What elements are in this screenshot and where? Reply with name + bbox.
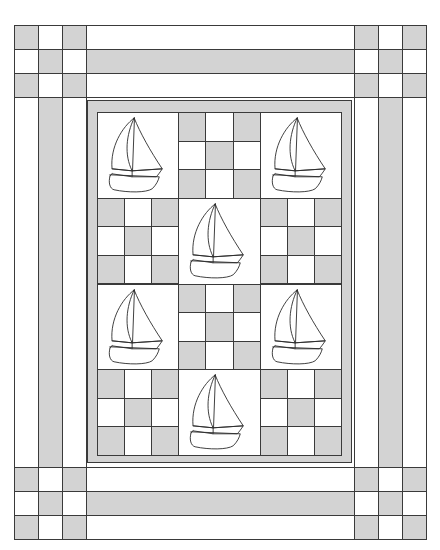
border-strip-top	[86, 49, 355, 74]
corner-patch-bottom-left	[62, 515, 87, 540]
corner-patch-top-left	[14, 25, 39, 50]
sailboat-block	[97, 112, 179, 199]
corner-patch-top-right	[402, 25, 427, 50]
nine-patch-square	[97, 226, 125, 256]
border-strip-left	[62, 97, 87, 468]
nine-patch-square	[151, 369, 179, 399]
nine-patch-square	[124, 398, 152, 428]
nine-patch-square	[205, 112, 233, 142]
nine-patch-square	[151, 398, 179, 428]
corner-patch-bottom-right	[354, 491, 379, 516]
corner-patch-top-right	[354, 25, 379, 50]
corner-patch-bottom-left	[62, 467, 87, 492]
nine-patch-square	[233, 341, 261, 371]
nine-patch-square	[314, 369, 342, 399]
nine-patch-square	[314, 226, 342, 256]
sailboat-icon	[261, 113, 341, 198]
quilt-pattern	[0, 0, 440, 550]
nine-patch-square	[205, 284, 233, 314]
corner-patch-top-right	[378, 49, 403, 74]
nine-patch-square	[287, 198, 315, 228]
nine-patch-square	[151, 255, 179, 285]
nine-patch-square	[314, 398, 342, 428]
corner-patch-bottom-right	[354, 467, 379, 492]
nine-patch-square	[260, 226, 288, 256]
nine-patch-square	[287, 255, 315, 285]
nine-patch-square	[178, 112, 206, 142]
sailboat-block	[260, 284, 342, 371]
nine-patch-square	[124, 226, 152, 256]
nine-patch-square	[233, 141, 261, 171]
nine-patch-square	[178, 341, 206, 371]
nine-patch-square	[205, 169, 233, 199]
corner-patch-top-right	[378, 25, 403, 50]
sailboat-block	[260, 112, 342, 199]
nine-patch-square	[233, 284, 261, 314]
nine-patch-square	[151, 198, 179, 228]
corner-patch-bottom-left	[38, 467, 63, 492]
border-strip-right	[402, 97, 427, 468]
corner-patch-bottom-right	[378, 515, 403, 540]
corner-patch-bottom-left	[14, 515, 39, 540]
nine-patch-square	[178, 284, 206, 314]
nine-patch-square	[233, 112, 261, 142]
nine-patch-square	[260, 369, 288, 399]
corner-patch-top-right	[402, 49, 427, 74]
border-strip-right	[378, 97, 403, 468]
corner-patch-top-left	[38, 25, 63, 50]
corner-patch-bottom-right	[378, 467, 403, 492]
nine-patch-square	[260, 198, 288, 228]
border-strip-left	[38, 97, 63, 468]
nine-patch-square	[97, 369, 125, 399]
corner-patch-top-right	[378, 73, 403, 98]
nine-patch-square	[205, 341, 233, 371]
sailboat-icon	[179, 370, 259, 455]
nine-patch-square	[287, 226, 315, 256]
corner-patch-top-right	[402, 73, 427, 98]
nine-patch-square	[205, 141, 233, 171]
sailboat-block	[97, 284, 179, 371]
nine-patch-square	[314, 426, 342, 456]
nine-patch-square	[97, 255, 125, 285]
nine-patch-square	[260, 398, 288, 428]
nine-patch-square	[124, 255, 152, 285]
sailboat-block	[178, 369, 260, 456]
corner-patch-top-right	[354, 73, 379, 98]
nine-patch-square	[260, 255, 288, 285]
sailboat-icon	[98, 113, 178, 198]
sailboat-icon	[261, 285, 341, 370]
nine-patch-square	[97, 426, 125, 456]
nine-patch-square	[97, 198, 125, 228]
corner-patch-bottom-right	[402, 467, 427, 492]
nine-patch-square	[124, 369, 152, 399]
border-strip-left	[14, 97, 39, 468]
corner-patch-bottom-right	[378, 491, 403, 516]
corner-patch-bottom-left	[38, 491, 63, 516]
nine-patch-square	[314, 198, 342, 228]
nine-patch-square	[233, 169, 261, 199]
corner-patch-top-left	[62, 25, 87, 50]
nine-patch-square	[124, 426, 152, 456]
corner-patch-bottom-right	[402, 515, 427, 540]
corner-patch-bottom-left	[62, 491, 87, 516]
nine-patch-square	[178, 169, 206, 199]
corner-patch-top-left	[62, 73, 87, 98]
nine-patch-square	[287, 426, 315, 456]
nine-patch-square	[124, 198, 152, 228]
sailboat-block	[178, 198, 260, 285]
nine-patch-square	[178, 141, 206, 171]
nine-patch-square	[205, 312, 233, 342]
border-strip-bottom	[86, 515, 355, 540]
border-strip-bottom	[86, 467, 355, 492]
nine-patch-square	[97, 398, 125, 428]
corner-patch-bottom-right	[402, 491, 427, 516]
corner-patch-top-left	[38, 49, 63, 74]
nine-patch-square	[287, 369, 315, 399]
border-strip-top	[86, 73, 355, 98]
corner-patch-top-left	[14, 73, 39, 98]
corner-patch-bottom-right	[354, 515, 379, 540]
sailboat-icon	[98, 285, 178, 370]
corner-patch-top-left	[38, 73, 63, 98]
corner-patch-bottom-left	[14, 491, 39, 516]
nine-patch-square	[233, 312, 261, 342]
